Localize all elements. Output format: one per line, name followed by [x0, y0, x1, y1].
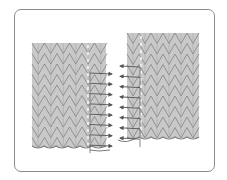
mattress-stitch-diagram: [0, 0, 227, 180]
